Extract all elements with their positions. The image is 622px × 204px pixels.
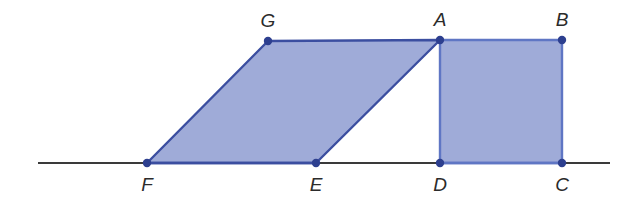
vertex-label-b: B — [556, 9, 569, 30]
vertex-label-e: E — [310, 174, 323, 195]
vertex-label-c: C — [555, 174, 569, 195]
rectangle-dcba — [440, 40, 562, 163]
vertex-label-d: D — [433, 174, 447, 195]
geometry-figure: F E D C G A B — [0, 0, 622, 204]
vertex-dot-b — [558, 36, 566, 44]
vertex-dot-c — [558, 159, 566, 167]
vertex-label-g: G — [261, 10, 276, 31]
geometry-canvas: F E D C G A B — [0, 0, 622, 204]
vertex-dot-e — [312, 159, 320, 167]
vertex-label-f: F — [141, 174, 154, 195]
vertex-dot-f — [143, 159, 151, 167]
vertex-dot-g — [264, 37, 272, 45]
parallelogram-feag — [147, 40, 440, 163]
vertex-dot-d — [436, 159, 444, 167]
vertex-label-a: A — [433, 9, 447, 30]
vertex-dot-a — [436, 36, 444, 44]
